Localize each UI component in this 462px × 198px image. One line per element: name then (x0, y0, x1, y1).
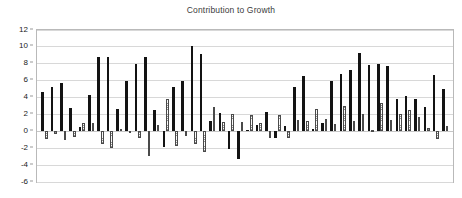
y-axis-tick-mark (30, 96, 33, 97)
bar-dark (97, 57, 100, 130)
bar-dark (228, 131, 231, 150)
bar-light (427, 128, 430, 131)
y-axis-tick-label: 12 (19, 24, 28, 33)
bar-dark (246, 130, 249, 131)
gridline--6 (37, 182, 453, 183)
bar-dark (349, 70, 352, 130)
bar-light (250, 115, 253, 131)
bar-light (120, 129, 123, 131)
bar-dark (274, 131, 277, 138)
y-axis-tick-mark (30, 79, 33, 80)
bar-light (185, 131, 188, 136)
bar-dark (153, 110, 156, 131)
bar-dark (405, 96, 408, 131)
bar-dark (191, 46, 194, 130)
bar-dark (219, 113, 222, 131)
bar-dark (358, 53, 361, 131)
bar-dark (433, 75, 436, 131)
y-axis-tick-label: 4 (24, 92, 28, 101)
bar-light (269, 131, 272, 138)
bar-dark (200, 54, 203, 130)
bar-dark (265, 112, 268, 131)
bar-light (353, 121, 356, 131)
bar-light (306, 121, 309, 131)
bar-light (380, 103, 383, 131)
bar-light (446, 126, 449, 131)
bar-dark (386, 66, 389, 131)
bar-dark (424, 107, 427, 131)
bar-light (213, 107, 216, 131)
y-axis: 121086420-2-4-6 (0, 29, 33, 183)
bar-dark (340, 74, 343, 131)
y-axis-tick-mark (30, 28, 33, 29)
bar-light (203, 131, 206, 152)
y-axis-tick-mark (30, 129, 33, 130)
bar-light (278, 115, 281, 131)
bar-dark (60, 83, 63, 131)
bar-dark (107, 57, 110, 131)
bar-light (166, 99, 169, 131)
bar-dark (163, 131, 166, 147)
bar-light (148, 131, 151, 156)
bar-dark (172, 87, 175, 131)
plot-area (36, 29, 454, 183)
y-axis-tick-mark (30, 146, 33, 147)
chart-figure: Contribution to Growth 121086420-2-4-6 (0, 0, 462, 198)
bar-light (325, 119, 328, 131)
chart-title: Contribution to Growth (0, 5, 462, 15)
y-axis-tick-label: -2 (21, 142, 28, 151)
bar-dark (302, 76, 305, 130)
y-axis-tick-label: 2 (24, 108, 28, 117)
y-axis-tick-mark (30, 62, 33, 63)
bar-light (343, 106, 346, 130)
bar-light (110, 131, 113, 148)
bar-dark (284, 126, 287, 131)
bar-dark (256, 125, 259, 131)
bar-dark (293, 87, 296, 130)
bar-dark (377, 64, 380, 131)
bar-dark (69, 108, 72, 131)
bar-light (222, 122, 225, 131)
bar-dark (396, 99, 399, 131)
bar-light (101, 131, 104, 145)
bar-dark (414, 99, 417, 131)
bar-light (399, 114, 402, 131)
bar-dark (312, 129, 315, 131)
bar-light (45, 131, 48, 139)
bar-light (175, 131, 178, 146)
bar-light (259, 123, 262, 131)
bar-light (129, 131, 132, 133)
bar-dark (442, 89, 445, 130)
bar-light (231, 114, 234, 131)
bar-dark (135, 64, 138, 131)
y-axis-tick-mark (30, 163, 33, 164)
bar-light (408, 110, 411, 131)
bar-dark (88, 95, 91, 131)
bar-light (73, 131, 76, 137)
bar-light (371, 130, 374, 132)
bar-dark (330, 81, 333, 131)
bar-light (436, 131, 439, 139)
y-axis-tick-mark (30, 45, 33, 46)
bar-light (362, 114, 365, 131)
y-axis-tick-mark (30, 180, 33, 181)
y-axis-tick-label: 8 (24, 58, 28, 67)
bar-dark (144, 57, 147, 131)
bar-dark (237, 131, 240, 159)
bar-light (297, 120, 300, 131)
bar-light (418, 117, 421, 131)
bar-light (92, 123, 95, 131)
y-axis-tick-label: -6 (21, 176, 28, 185)
bar-light (287, 131, 290, 138)
bar-light (390, 120, 393, 131)
bar-dark (51, 87, 54, 131)
bar-dark (41, 92, 44, 131)
bar-dark (321, 123, 324, 131)
y-axis-tick-mark (30, 112, 33, 113)
bar-light (194, 131, 197, 144)
bar-light (138, 131, 141, 139)
bar-light (315, 109, 318, 131)
y-axis-tick-label: -4 (21, 159, 28, 168)
bar-dark (125, 81, 128, 131)
bar-dark (181, 81, 184, 130)
